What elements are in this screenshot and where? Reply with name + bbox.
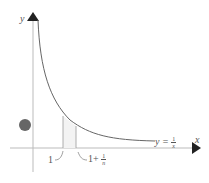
tick-label-fraction: 1 n <box>101 153 106 166</box>
tick-label-1-plus-1-over-n: 1+ 1 n <box>88 153 106 166</box>
tick-label-numerator: 1 <box>101 153 106 160</box>
curve-label-lhs: y = <box>155 136 169 147</box>
curve-label-denominator: x <box>171 143 176 149</box>
tick-leader-1 <box>55 151 63 160</box>
curve-y-equals-1-over-x <box>38 20 155 141</box>
curve-label-fraction: 1 x <box>171 136 176 149</box>
tick-label-denominator: n <box>101 160 106 166</box>
curve-label: y = 1 x <box>155 136 176 149</box>
tick-label-prefix: 1+ <box>88 153 99 164</box>
x-axis-label: x <box>195 135 199 145</box>
area-strip <box>63 116 76 148</box>
y-axis-label: y <box>20 14 24 24</box>
tick-label-1: 1 <box>48 155 53 165</box>
tick-leader-1-plus <box>78 152 87 160</box>
curve-label-numerator: 1 <box>171 136 176 143</box>
y-axis-arrow-icon <box>27 12 39 21</box>
marker-dot <box>19 119 31 131</box>
